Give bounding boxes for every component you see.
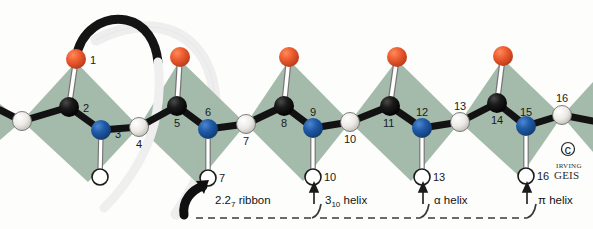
region-label-alpha-helix: α helix	[434, 194, 468, 206]
region-arrow-310	[310, 183, 318, 204]
region-arrow-alpha	[419, 183, 427, 204]
atom-number-label: 7	[243, 135, 249, 147]
oxygen-atom	[493, 46, 513, 66]
atom-number-label: 16	[556, 92, 568, 104]
atom-number-label: 3	[115, 128, 121, 140]
copyright-symbol-label: c	[565, 142, 572, 157]
nitrogen-atom	[303, 118, 323, 138]
carbon-atom	[274, 96, 294, 116]
hydrogen-number-label: 10	[324, 171, 336, 183]
hydrogen-number-label: 16	[537, 170, 549, 182]
carbon-atom	[487, 93, 507, 113]
alpha-carbon-atom	[553, 106, 572, 125]
figure-canvas: 1 2 3 4 5 6 7 8 9 10 11 12 13 14 15 16 7…	[0, 0, 593, 229]
atom-number-label: 6	[205, 106, 211, 118]
nitrogen-atom	[91, 120, 111, 140]
alpha-carbon-atom	[13, 112, 32, 131]
hydrogen-atom	[305, 169, 321, 185]
signature-line-2: GEIS	[554, 169, 579, 181]
atom-number-label: 4	[136, 138, 142, 150]
region-dashed-riser	[312, 204, 321, 218]
carbon-atom	[380, 96, 400, 116]
atom-number-label: 8	[281, 117, 287, 129]
atom-number-label: 9	[310, 106, 316, 118]
atom-number-label: 13	[454, 100, 466, 112]
hydrogen-atom	[92, 169, 108, 185]
region-dashed-riser	[420, 204, 429, 218]
region-label-310-helix: 310 helix	[325, 194, 367, 209]
atom-number-label: 2	[83, 102, 89, 114]
hydrogen-number-label: 13	[433, 171, 445, 183]
atom-number-label: 14	[491, 114, 503, 126]
region-dashed-riser	[527, 204, 536, 218]
atom-number-label: 10	[344, 133, 356, 145]
region-label-pi-helix: π helix	[538, 194, 573, 206]
alpha-carbon-atom	[237, 115, 256, 134]
hydrogen-atom	[518, 168, 534, 184]
hydrogen-number-label-group: 7 10 13 16	[219, 170, 549, 184]
oxygen-atom	[170, 47, 190, 67]
alpha-carbon-atom	[341, 113, 360, 132]
oxygen-atom	[279, 47, 299, 67]
hydrogen-atom	[414, 169, 430, 185]
nitrogen-atom	[516, 116, 536, 136]
region-dashed-riser-group	[312, 204, 536, 218]
carbon-atom	[167, 96, 187, 116]
oxygen-atom-group	[66, 46, 513, 69]
alpha-carbon-atom	[451, 113, 470, 132]
region-arrow-pi	[523, 183, 531, 204]
atom-number-label: 15	[520, 106, 532, 118]
nitrogen-atom	[198, 119, 218, 139]
nitrogen-atom	[412, 118, 432, 138]
carbon-atom	[59, 97, 79, 117]
oxygen-atom	[66, 49, 86, 69]
atom-number-label: 5	[174, 117, 180, 129]
region-label-group: 2.27 ribbon 310 helix α helix π helix	[215, 194, 573, 209]
atom-number-label: 11	[383, 117, 394, 129]
alpha-carbon-atom	[130, 118, 149, 137]
peptide-backbone-figure: 1 2 3 4 5 6 7 8 9 10 11 12 13 14 15 16 7…	[0, 0, 593, 229]
region-label-22-ribbon: 2.27 ribbon	[215, 194, 271, 209]
atom-number-label: 1	[90, 54, 96, 66]
peptide-plane	[22, 62, 139, 182]
oxygen-atom	[387, 47, 407, 67]
atom-number-label: 12	[416, 106, 428, 118]
hydrogen-number-label: 7	[219, 172, 225, 184]
artist-signature: c IRVING GEIS	[554, 142, 582, 181]
